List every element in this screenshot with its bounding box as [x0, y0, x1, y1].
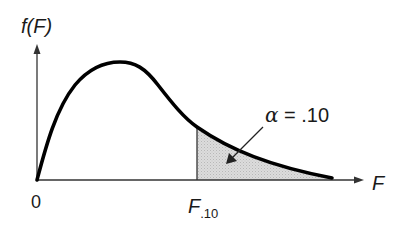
- alpha-annotation: α = .10: [265, 105, 329, 125]
- y-axis-label: f(F): [21, 16, 52, 36]
- f-distribution-diagram: f(F) F 0 F.10 α = .10: [0, 0, 409, 232]
- alpha-symbol: α: [265, 103, 279, 127]
- x-axis-arrow-icon: [354, 177, 364, 184]
- x-axis-label: F: [372, 173, 384, 193]
- alpha-value: .10: [301, 104, 329, 126]
- critical-value-label: F.10: [188, 196, 218, 220]
- origin-label: 0: [31, 193, 41, 211]
- y-axis-arrow-icon: [34, 44, 41, 54]
- alpha-equals: =: [279, 104, 302, 126]
- critical-value-symbol: F: [188, 195, 200, 217]
- critical-value-subscript: .10: [200, 206, 218, 221]
